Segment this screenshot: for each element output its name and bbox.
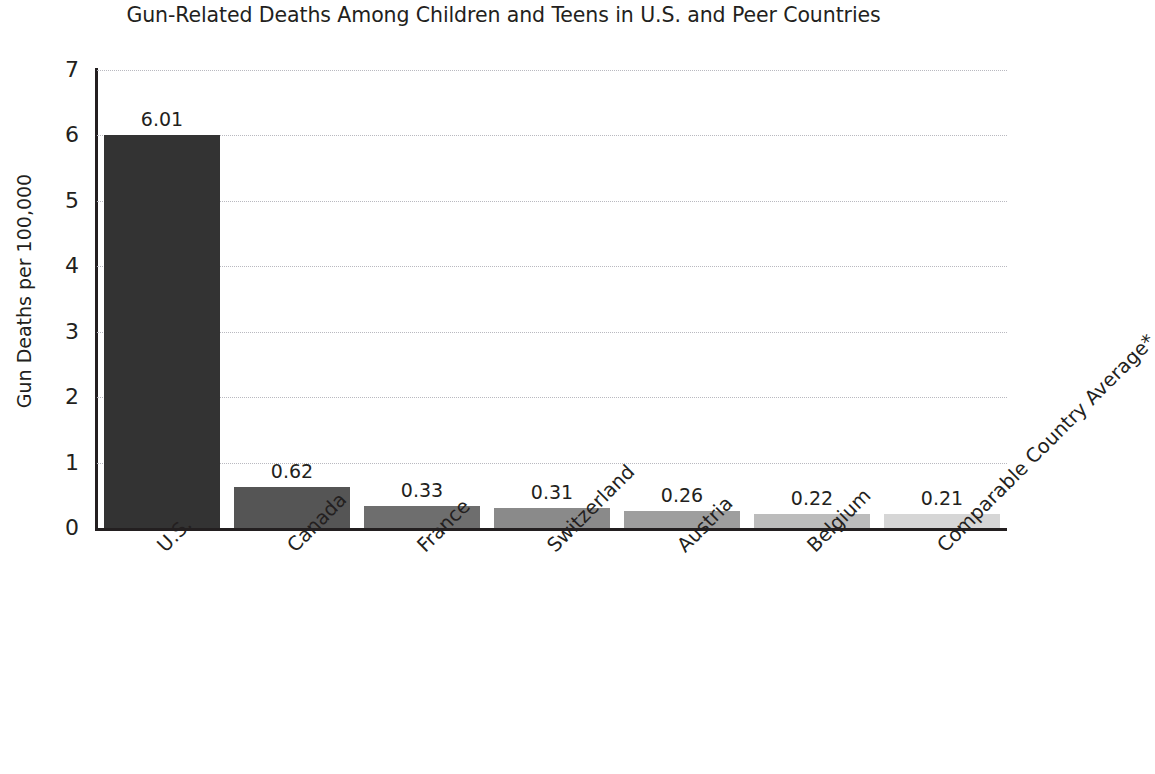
y-tick-label: 1 (19, 452, 79, 474)
y-tick-label: 4 (19, 255, 79, 277)
y-tick-label: 5 (19, 190, 79, 212)
y-tick-label: 6 (19, 124, 79, 146)
y-tick-label: 2 (19, 386, 79, 408)
y-tick-label: 7 (19, 59, 79, 81)
bar-value-label: 0.62 (234, 461, 350, 481)
y-tick-label: 0 (19, 517, 79, 539)
bar-value-label: 6.01 (104, 109, 220, 129)
y-tick-label: 3 (19, 321, 79, 343)
plot-area (97, 70, 1007, 528)
bar (104, 135, 220, 528)
chart-title: Gun-Related Deaths Among Children and Te… (0, 2, 1007, 28)
bar-value-label: 0.33 (364, 480, 480, 500)
